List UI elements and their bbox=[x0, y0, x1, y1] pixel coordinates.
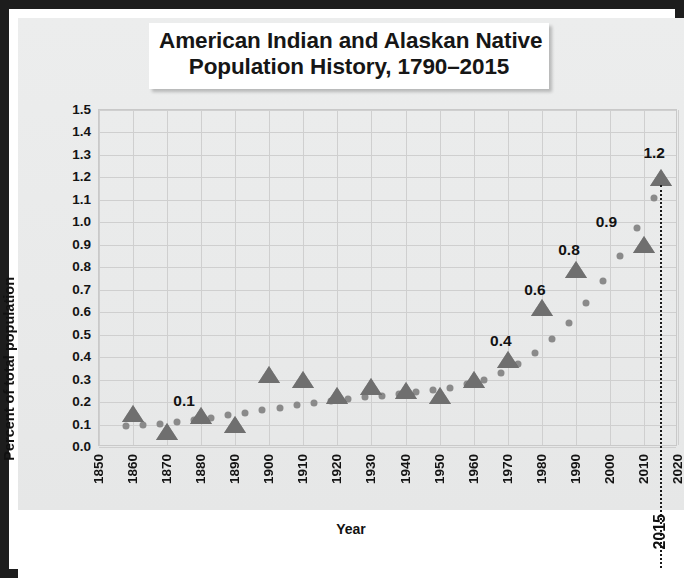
x-axis-tick-label: 1990 bbox=[568, 454, 583, 484]
trendline-dot bbox=[617, 252, 624, 259]
y-axis-tick-label: 1.4 bbox=[51, 124, 91, 139]
x-axis-tick-label: 1870 bbox=[159, 454, 174, 484]
trendline-dot bbox=[310, 399, 317, 406]
data-point-label: 0.8 bbox=[558, 241, 580, 259]
x-axis-tick-label: 2000 bbox=[602, 454, 617, 484]
gridline-vertical bbox=[542, 110, 543, 445]
trendline-dot bbox=[548, 336, 555, 343]
gridline-horizontal bbox=[99, 267, 676, 268]
year-2015-annotation-label: 2015 bbox=[651, 514, 669, 550]
x-axis-tick-label: 1930 bbox=[363, 454, 378, 484]
data-point-marker[interactable] bbox=[292, 371, 314, 388]
y-axis-tick-label: 0.1 bbox=[51, 416, 91, 431]
data-point-marker[interactable] bbox=[633, 236, 655, 253]
x-axis-tick-label: 1950 bbox=[432, 454, 447, 484]
y-axis-tick-label: 0.5 bbox=[51, 326, 91, 341]
gridline-vertical bbox=[133, 110, 134, 445]
gridline-horizontal bbox=[99, 155, 676, 156]
trendline-dot bbox=[583, 299, 590, 306]
trendline-dot bbox=[123, 423, 130, 430]
y-axis-tick-label: 0.3 bbox=[51, 371, 91, 386]
data-point-marker[interactable] bbox=[497, 351, 519, 368]
gridline-horizontal bbox=[99, 335, 676, 336]
x-axis-tick-label: 1880 bbox=[193, 454, 208, 484]
data-point-marker[interactable] bbox=[650, 169, 672, 186]
trendline-dot bbox=[293, 402, 300, 409]
trendline-dot bbox=[140, 421, 147, 428]
gridline-horizontal bbox=[99, 200, 676, 201]
data-point-marker[interactable] bbox=[360, 378, 382, 395]
y-axis-tick-label: 0.7 bbox=[51, 281, 91, 296]
gridline-vertical bbox=[474, 110, 475, 445]
data-point-label: 0.6 bbox=[524, 281, 546, 299]
y-axis-tick-label: 1.1 bbox=[51, 191, 91, 206]
data-point-marker[interactable] bbox=[565, 261, 587, 278]
gridline-vertical bbox=[610, 110, 611, 445]
x-axis-tick-label: 1960 bbox=[466, 454, 481, 484]
gridline-horizontal bbox=[99, 312, 676, 313]
x-axis-tick-label: 1890 bbox=[227, 454, 242, 484]
y-axis-tick-label: 0.6 bbox=[51, 304, 91, 319]
x-axis-tick-label: 1910 bbox=[295, 454, 310, 484]
y-axis-tick-label: 1.5 bbox=[51, 102, 91, 117]
gridline-vertical bbox=[303, 110, 304, 445]
data-point-marker[interactable] bbox=[122, 405, 144, 422]
gridline-horizontal bbox=[99, 357, 676, 358]
y-axis-tick-label: 1.2 bbox=[51, 169, 91, 184]
y-axis-tick-label: 1.0 bbox=[51, 214, 91, 229]
gridline-horizontal bbox=[99, 110, 676, 111]
data-point-marker[interactable] bbox=[531, 299, 553, 316]
gridline-vertical bbox=[201, 110, 202, 445]
x-axis-tick-label: 1970 bbox=[500, 454, 515, 484]
x-axis-tick-label: 1850 bbox=[91, 454, 106, 484]
y-axis-tick-label: 0.9 bbox=[51, 236, 91, 251]
y-axis-tick-label: 1.3 bbox=[51, 146, 91, 161]
data-point-marker[interactable] bbox=[395, 382, 417, 399]
trendline-dot bbox=[259, 407, 266, 414]
x-axis-tick-label: 1980 bbox=[534, 454, 549, 484]
x-axis-tick-label: 1860 bbox=[125, 454, 140, 484]
trendline-dot bbox=[566, 319, 573, 326]
gridline-vertical bbox=[371, 110, 372, 445]
y-axis-tick-label: 0.8 bbox=[51, 259, 91, 274]
trendline-dot bbox=[651, 195, 658, 202]
data-point-label: 1.2 bbox=[643, 144, 665, 162]
gridline-horizontal bbox=[99, 177, 676, 178]
gridline-vertical bbox=[678, 110, 679, 445]
data-point-marker[interactable] bbox=[224, 416, 246, 433]
gridline-horizontal bbox=[99, 425, 676, 426]
gridline-horizontal bbox=[99, 290, 676, 291]
data-point-label: 0.4 bbox=[490, 332, 512, 350]
data-point-marker[interactable] bbox=[156, 423, 178, 440]
trendline-dot bbox=[634, 225, 641, 232]
y-axis-tick-label: 0.2 bbox=[51, 394, 91, 409]
y-axis-tick-label: 0.4 bbox=[51, 349, 91, 364]
y-axis-tick-label: 0.0 bbox=[51, 439, 91, 454]
data-point-label: 0.1 bbox=[173, 392, 195, 410]
data-point-marker[interactable] bbox=[463, 371, 485, 388]
gridline-horizontal bbox=[99, 380, 676, 381]
data-point-marker[interactable] bbox=[326, 387, 348, 404]
gridline-horizontal bbox=[99, 222, 676, 223]
data-point-label: 0.9 bbox=[596, 213, 618, 231]
x-axis-tick-label: 2010 bbox=[636, 454, 651, 484]
year-2015-marker-line bbox=[660, 185, 662, 568]
trendline-dot bbox=[531, 350, 538, 357]
trendline-dot bbox=[276, 404, 283, 411]
data-point-marker[interactable] bbox=[258, 366, 280, 383]
gridline-vertical bbox=[235, 110, 236, 445]
x-axis-tick-label: 1920 bbox=[329, 454, 344, 484]
gridline-vertical bbox=[269, 110, 270, 445]
gridline-horizontal bbox=[99, 245, 676, 246]
x-axis-tick-label: 1900 bbox=[261, 454, 276, 484]
x-axis-tick-label: 2020 bbox=[670, 454, 684, 484]
trendline-dot bbox=[600, 277, 607, 284]
data-point-marker[interactable] bbox=[429, 387, 451, 404]
x-axis-tick-label: 1940 bbox=[398, 454, 413, 484]
plot-area: 0.10.40.60.80.91.2 bbox=[98, 109, 677, 446]
trendline-dot bbox=[497, 370, 504, 377]
chart-frame: American Indian and Alaskan Native Popul… bbox=[0, 0, 684, 578]
gridline-vertical bbox=[167, 110, 168, 445]
gridline-vertical bbox=[99, 110, 100, 445]
trendline-dot bbox=[361, 394, 368, 401]
